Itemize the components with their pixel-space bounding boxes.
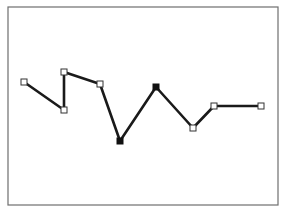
vertex-handle[interactable] [97,81,103,87]
vertex-handle[interactable] [21,79,27,85]
filled-vertex-handle[interactable] [153,84,159,90]
filled-vertex-handle[interactable] [117,138,123,144]
polyline-diagram [0,0,284,211]
vertex-handle[interactable] [211,103,217,109]
vertex-handle[interactable] [61,107,67,113]
vertex-handle[interactable] [258,103,264,109]
vertex-handle[interactable] [61,69,67,75]
vertex-handle[interactable] [190,125,196,131]
